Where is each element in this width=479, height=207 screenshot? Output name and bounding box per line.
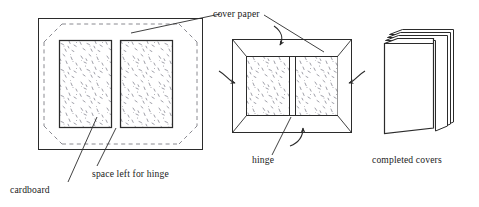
label-cover-paper: cover paper [213,8,260,19]
panel-completed-covers: completed covers [372,30,454,166]
cardboard-board-left [60,41,112,128]
label-completed-covers: completed covers [372,154,442,165]
cover-stack-front [385,39,434,134]
bookbinding-diagram: cardboard space left for hinge [0,0,479,207]
figure-canvas: cardboard space left for hinge [0,0,479,207]
folded-board-left [247,57,290,115]
label-cardboard: cardboard [10,184,50,195]
folded-board-right [295,57,338,115]
label-space-left-for-hinge: space left for hinge [92,168,169,179]
cardboard-board-right [121,41,173,128]
label-hinge: hinge [252,154,274,165]
panel-folded-flaps: cover paper hinge [213,8,365,165]
panel-flat-layout: cardboard space left for hinge [10,14,220,195]
